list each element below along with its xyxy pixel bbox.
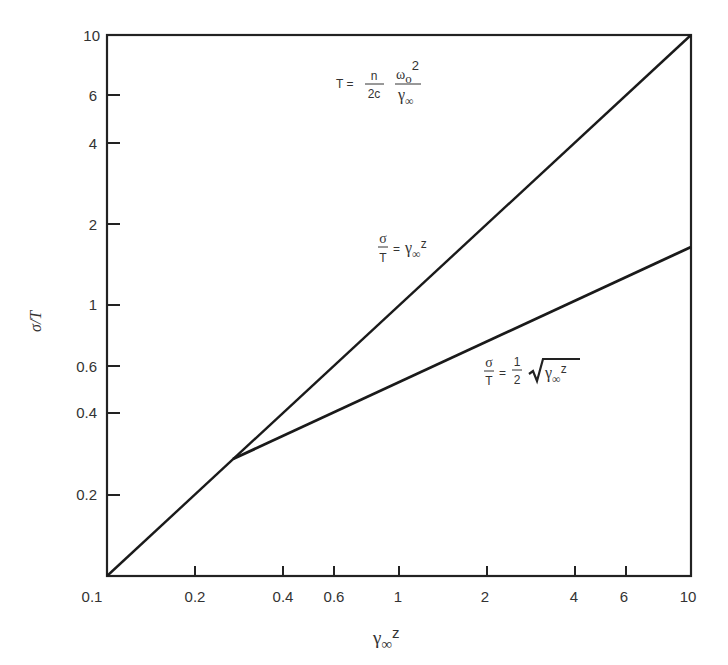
annotation-sqrt: σ T = 1 2 γ∞z bbox=[484, 355, 580, 388]
svg-text:T =: T = bbox=[336, 77, 353, 91]
svg-text:1: 1 bbox=[514, 355, 521, 369]
svg-text:2: 2 bbox=[514, 373, 521, 387]
x-axis-tick-labels: 0.1 0.1 0.2 0.4 0.6 1 2 4 6 10 bbox=[82, 588, 697, 605]
y-axis-ticks bbox=[107, 95, 120, 495]
svg-text:σ: σ bbox=[485, 355, 493, 370]
svg-text:γ∞z: γ∞z bbox=[372, 624, 400, 652]
series-linear-line bbox=[107, 35, 691, 576]
svg-text:=: = bbox=[499, 366, 506, 380]
log-log-chart: 0.1 0.1 0.2 0.4 0.6 1 2 4 6 10 0.1 0.2 0… bbox=[0, 0, 728, 665]
series-sqrt-line bbox=[233, 247, 691, 459]
x-tick-label: 6 bbox=[620, 588, 628, 605]
svg-text:T: T bbox=[485, 374, 493, 388]
svg-text:T: T bbox=[379, 251, 387, 265]
annotation-linear: σ T = γ∞z bbox=[378, 231, 427, 265]
x-tick-label: 10 bbox=[680, 588, 697, 605]
y-axis-label: σ/T bbox=[27, 310, 44, 332]
y-tick-label: 0.6 bbox=[76, 358, 97, 375]
x-tick-label: 0.1 bbox=[82, 588, 103, 605]
x-label-tail: z bbox=[392, 624, 400, 641]
svg-text:σ: σ bbox=[379, 231, 387, 246]
x-tick-label: 0.4 bbox=[273, 588, 294, 605]
y-tick-label: 10 bbox=[83, 27, 100, 44]
x-axis-ticks bbox=[195, 566, 626, 576]
svg-text:γ∞: γ∞ bbox=[397, 86, 414, 108]
svg-text:n: n bbox=[371, 69, 378, 83]
x-tick-label: 1 bbox=[394, 588, 402, 605]
x-tick-label: 2 bbox=[481, 588, 489, 605]
svg-text:=: = bbox=[393, 242, 400, 256]
svg-text:ωo2: ωo2 bbox=[396, 58, 419, 86]
x-axis-label: γ∞z bbox=[372, 624, 400, 652]
y-axis-tick-labels: 0.1 0.2 0.4 0.6 1 2 4 6 10 bbox=[76, 27, 100, 503]
y-tick-label: 2 bbox=[89, 216, 97, 233]
x-tick-label: 0.6 bbox=[324, 588, 345, 605]
x-label-gamma: γ bbox=[372, 627, 381, 648]
svg-text:γ∞z: γ∞z bbox=[404, 237, 427, 261]
x-label-sub: ∞ bbox=[381, 636, 392, 652]
annotation-T-formula: T = n 2c ωo2 γ∞ bbox=[336, 58, 421, 108]
y-tick-label: 0.4 bbox=[76, 404, 97, 421]
y-tick-label: 0.2 bbox=[76, 486, 97, 503]
y-tick-label: 6 bbox=[89, 87, 97, 104]
svg-text:γ∞z: γ∞z bbox=[544, 362, 567, 386]
y-tick-label: 1 bbox=[89, 296, 97, 313]
y-tick-label: 4 bbox=[89, 135, 97, 152]
svg-text:2c: 2c bbox=[368, 87, 381, 101]
x-tick-label: 0.2 bbox=[185, 588, 206, 605]
x-tick-label: 4 bbox=[570, 588, 578, 605]
